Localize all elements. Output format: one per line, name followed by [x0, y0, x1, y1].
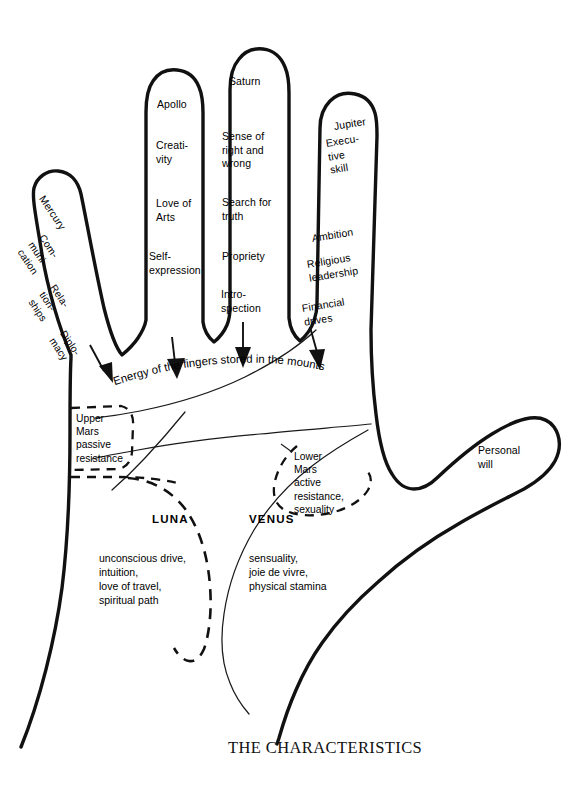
palmistry-diagram-page: Energy of the fingers stored in the moun…: [0, 0, 575, 804]
finger-apollo-trait-1: Creati- vity: [156, 139, 188, 166]
finger-apollo-trait-3: Self- expression: [149, 250, 201, 277]
finger-saturn-trait-2: Search for truth: [222, 196, 271, 223]
lower-mars-label: Lower Mars active resistance, sexuality: [294, 450, 344, 516]
mount-venus-name: VENUS: [249, 513, 295, 525]
energy-arrow-mercury: [90, 345, 113, 383]
lower-mars-leader: [281, 444, 292, 452]
finger-apollo-trait-2: Love of Arts: [156, 197, 191, 224]
mount-venus-description: sensuality, joie de vivre, physical stam…: [249, 551, 327, 593]
finger-saturn-trait-1: Sense of right and wrong: [222, 130, 264, 171]
mount-luna-description: unconscious drive, intuition, love of tr…: [99, 551, 186, 607]
upper-mars-label: Upper Mars passive resistance: [76, 412, 123, 465]
upper-mars-lower-boundary: [71, 477, 178, 483]
finger-saturn-trait-4: Intro- spection: [221, 288, 261, 315]
finger-saturn-name: Saturn: [229, 75, 261, 89]
thumb-label: Personal will: [478, 444, 520, 471]
mount-luna-name: LUNA: [152, 513, 189, 525]
finger-jupiter-trait-1: Execu- tive skill: [325, 132, 364, 177]
energy-flow-note-textpath: Energy of the fingers stored in the moun…: [112, 353, 327, 388]
fate-line: [112, 412, 185, 490]
energy-flow-note: Energy of the fingers stored in the moun…: [112, 353, 327, 388]
hand-outline-path: [21, 49, 559, 747]
page-title: THE CHARACTERISTICS: [228, 738, 422, 758]
energy-arrow-apollo: [167, 337, 185, 379]
finger-apollo-name: Apollo: [157, 98, 187, 112]
finger-saturn-trait-3: Propriety: [222, 250, 265, 264]
hand-diagram-svg: Energy of the fingers stored in the moun…: [0, 0, 575, 804]
